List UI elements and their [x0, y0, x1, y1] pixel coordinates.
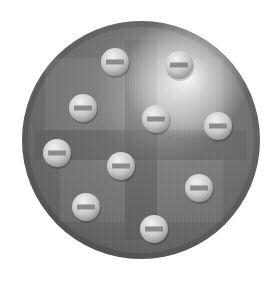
minus-sign-icon	[145, 227, 163, 232]
minus-sign-icon	[209, 124, 227, 129]
minus-sign-icon	[147, 117, 165, 122]
minus-sign-icon	[106, 60, 124, 65]
minus-sign-icon	[170, 63, 188, 68]
minus-sign-icon	[74, 106, 92, 111]
atom-sphere-graphic	[0, 0, 279, 281]
minus-sign-icon	[190, 186, 208, 191]
minus-sign-icon	[112, 164, 130, 169]
plum-pudding-diagram	[0, 0, 279, 281]
minus-sign-icon	[77, 205, 95, 210]
minus-sign-icon	[48, 151, 66, 156]
